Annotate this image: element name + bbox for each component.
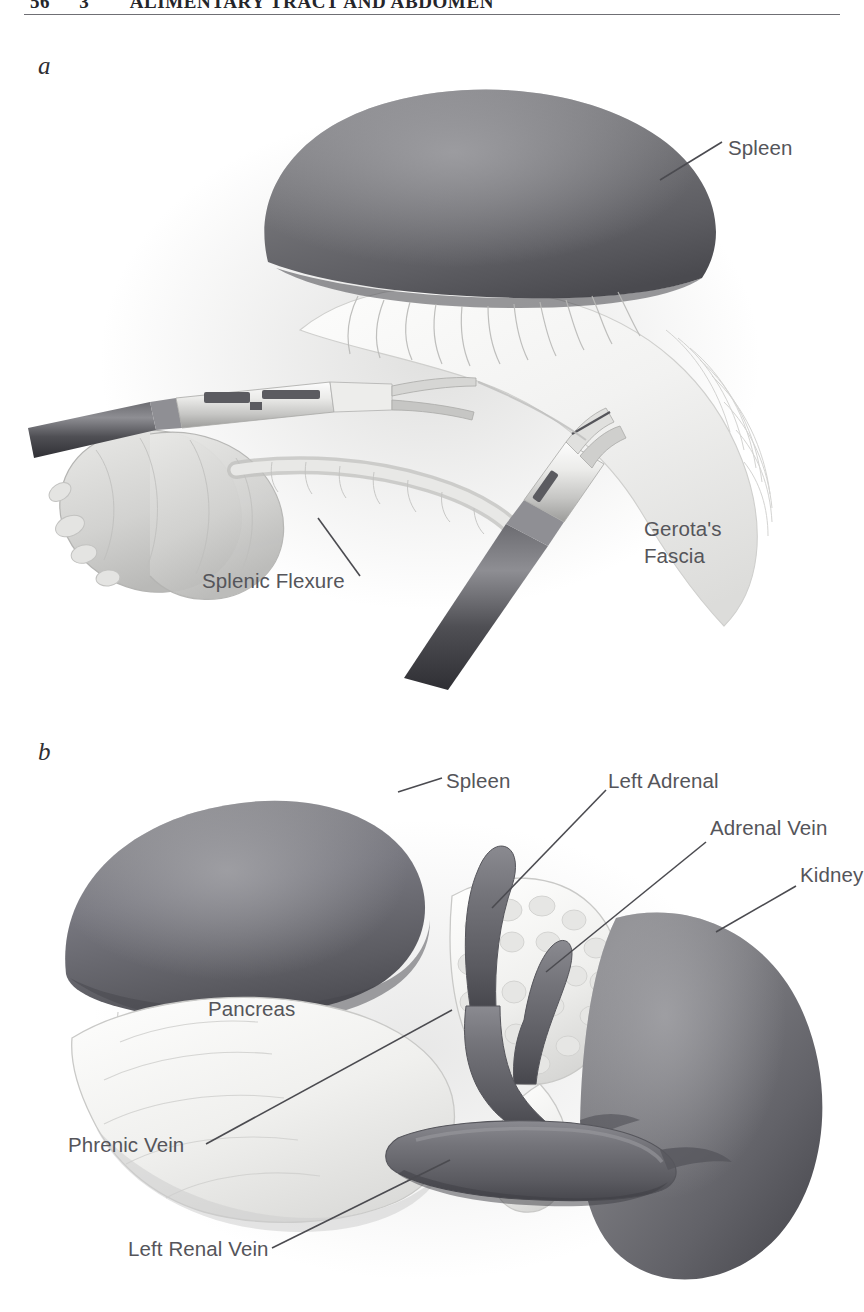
leader-line-spleen-b: [398, 778, 442, 792]
label-pancreas: Pancreas: [208, 996, 295, 1022]
leader-line-kidney: [716, 886, 796, 932]
running-head-title: ALIMENTARY TRACT AND ABDOMEN: [130, 0, 494, 12]
header-rule: [24, 14, 840, 15]
figure-panel-b: b: [0, 720, 864, 1312]
label-kidney: Kidney: [800, 862, 863, 888]
illustration-panel-a: [0, 30, 864, 690]
label-spleen: Spleen: [728, 135, 792, 161]
label-adrenal-vein: Adrenal Vein: [710, 815, 827, 841]
label-gerotas-fascia: Gerota's: [644, 516, 722, 542]
figure-panel-a: a: [0, 30, 864, 690]
label-left-adrenal: Left Adrenal: [608, 768, 719, 794]
label-left-renal-vein: Left Renal Vein: [128, 1236, 269, 1262]
section-number: 3: [79, 0, 125, 13]
label-spleen-b: Spleen: [446, 768, 510, 794]
running-head: 56 3 ALIMENTARY TRACT AND ABDOMEN: [0, 0, 864, 13]
running-head-text: 56 3 ALIMENTARY TRACT AND ABDOMEN: [30, 0, 834, 13]
label-splenic-flexure: Splenic Flexure: [202, 568, 345, 594]
page-folio: 56: [30, 0, 74, 13]
label-phrenic-vein: Phrenic Vein: [68, 1132, 184, 1158]
label-gerotas-fascia-line2: Fascia: [644, 543, 705, 569]
illustration-panel-b: [0, 720, 864, 1312]
